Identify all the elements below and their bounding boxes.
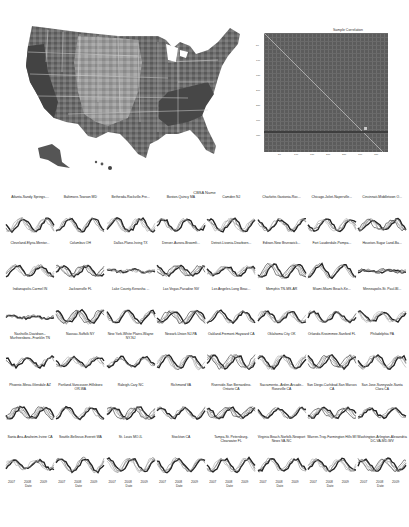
panel: San Diego-Carlsbad-San Marcos CA [307,384,357,430]
panel: Memphis TN-MS-AR [257,288,307,334]
panel-title: New York-White Plains-Wayne NY-NJ [106,333,156,341]
x-axis-label: Date [126,484,133,488]
line-plot [106,400,156,426]
line-plot [5,212,55,238]
panel-title: Santa Ana-Anaheim-Irvine CA [5,436,55,440]
corr-xtick: 100 [294,153,298,156]
heatmap-svg [264,33,388,152]
line-plot [206,452,256,478]
x-tick: 2009 [292,480,299,484]
x-tick: 2009 [40,480,47,484]
panel: St. Louis MO-IL200720082009Date [106,436,156,482]
x-tick: 2007 [310,480,317,484]
us-choropleth-map [18,22,243,170]
line-plot [55,212,105,238]
panel: Washington-Arlington-Alexandria DC-VA-MD… [357,436,407,482]
line-plot [357,258,407,284]
panel-title: San Diego-Carlsbad-San Marcos CA [307,384,357,392]
line-plot [357,212,407,238]
panel-title: Denver-Aurora-Broomfi... [156,242,206,246]
panel: Atlanta-Sandy Springs-... [5,196,55,242]
panel-title: Nassau-Suffolk NY [55,333,105,337]
panel: Minneapolis-St. Paul-Bl... [357,288,407,334]
panel-title: Memphis TN-MS-AR [257,288,307,292]
panel-title: Columbus OH [55,242,105,246]
panel-title: Tampa-St. Petersburg-Clearwater FL [206,436,256,444]
map-svg [18,22,243,170]
line-plot [55,400,105,426]
panel-title: Minneapolis-St. Paul-Bl... [357,288,407,292]
panel-title: Detroit-Livonia-Dearborn... [206,242,256,246]
panel: Columbus OH [55,242,105,288]
panel: Edison-New Brunswick... [257,242,307,288]
line-plot [206,349,256,375]
panel-title: Riverside-San Bernardino-Ontario CA [206,384,256,392]
x-axis-label: Date [176,484,183,488]
panel: Sacramento--Arden-Arcade--Roseville CA [257,384,307,430]
panel-title: Jacksonville FL [55,288,105,292]
panel: Portland-Vancouver-Hillsboro OR-WA [55,384,105,430]
line-plot [206,400,256,426]
panel: Miami-Miami Beach-Ke... [307,288,357,334]
line-plot [106,452,156,478]
corr-ytick: 300 [256,119,260,122]
corr-ytick: 150 [256,74,260,77]
line-plot [257,304,307,330]
line-plot [206,212,256,238]
panel-title: Washington-Arlington-Alexandria DC-VA-MD… [357,436,407,444]
corr-xtick: 300 [358,153,362,156]
panel: Richmond VA [156,384,206,430]
line-plot [156,452,206,478]
panel: Denver-Aurora-Broomfi... [156,242,206,288]
line-plot [357,400,407,426]
x-tick: 2009 [191,480,198,484]
x-tick: 2009 [392,480,399,484]
line-plot [106,258,156,284]
line-plot [257,212,307,238]
panel: Las Vegas-Paradise NV [156,288,206,334]
panel: Los Angeles-Long Beac... [206,288,256,334]
line-plot [106,304,156,330]
panel: Seattle-Bellevue-Everett WA200720082009D… [55,436,105,482]
line-plot [307,304,357,330]
panel-title: Indianapolis-Carmel IN [5,288,55,292]
panel: Tampa-St. Petersburg-Clearwater FL200720… [206,436,256,482]
line-plot [307,258,357,284]
line-plot [156,258,206,284]
line-plot [55,452,105,478]
panel: Riverside-San Bernardino-Ontario CA [206,384,256,430]
panel-title: Portland-Vancouver-Hillsboro OR-WA [55,384,105,392]
correlation-title: Sample Correlation [300,28,396,32]
x-axis-label: Date [327,484,334,488]
panel-title: Los Angeles-Long Beac... [206,288,256,292]
panel: Nashville-Davidson--Murfreesboro--Frankl… [5,333,55,379]
line-plot [257,452,307,478]
panel-title: Camden NJ [206,196,256,200]
x-axis-label: Date [25,484,32,488]
line-plot [156,304,206,330]
panel: Raleigh-Cary NC [106,384,156,430]
panel: Detroit-Livonia-Dearborn... [206,242,256,288]
corr-xtick: 250 [342,153,346,156]
panel-title: Raleigh-Cary NC [106,384,156,388]
panel: Chicago-Joliet-Naperville... [307,196,357,242]
panel-title: Sacramento--Arden-Arcade--Roseville CA [257,384,307,392]
panel: Philadelphia PA [357,333,407,379]
panel: Jacksonville FL [55,288,105,334]
line-plot [106,349,156,375]
x-tick: 2009 [342,480,349,484]
panel: Houston-Sugar Land-Ba... [357,242,407,288]
x-tick: 2009 [141,480,148,484]
panel-title: Newark-Union NJ-PA [156,333,206,337]
panel-title: Bethesda-Rockville-Fre... [106,196,156,200]
x-tick: 2007 [159,480,166,484]
x-tick: 2007 [8,480,15,484]
corr-xtick: 350 [374,153,378,156]
panel-title: Cleveland-Elyria-Mentor... [5,242,55,246]
panel: Virginia Beach-Norfolk-Newport News VA-N… [257,436,307,482]
x-tick: 2007 [209,480,216,484]
line-plot [257,349,307,375]
line-plot [357,452,407,478]
corr-xtick: 200 [326,153,330,156]
x-axis-label: Date [277,484,284,488]
